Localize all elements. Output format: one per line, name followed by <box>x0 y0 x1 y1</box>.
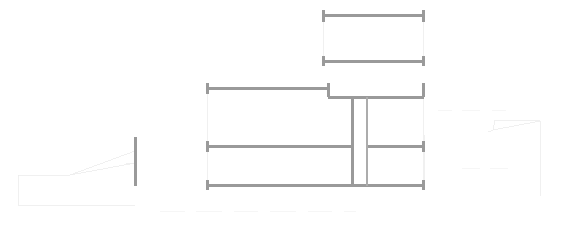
drawing-canvas <box>0 0 567 234</box>
drawing-background <box>0 0 567 234</box>
floor-plan-drawing <box>0 0 567 234</box>
